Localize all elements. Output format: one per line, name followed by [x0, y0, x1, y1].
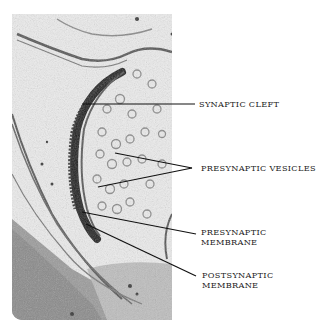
label-presynaptic-vesicles: PRESYNAPTIC VESICLES [201, 163, 316, 173]
label-line-1: PRESYNAPTIC [201, 227, 267, 237]
synapse-figure: SYNAPTIC CLEFT PRESYNAPTIC VESICLES PRES… [0, 0, 320, 335]
label-line-2: MEMBRANE [201, 237, 267, 247]
label-postsynaptic-membrane: POSTSYNAPTIC MEMBRANE [202, 270, 273, 290]
label-presynaptic-membrane: PRESYNAPTIC MEMBRANE [201, 227, 267, 247]
label-text: SYNAPTIC CLEFT [199, 99, 279, 109]
leader-vesicles-lower [98, 168, 192, 187]
leader-vesicles-upper [115, 153, 192, 168]
label-synaptic-cleft: SYNAPTIC CLEFT [199, 99, 279, 109]
label-text: PRESYNAPTIC VESICLES [201, 163, 316, 173]
leader-postsynaptic-membrane [86, 224, 196, 276]
label-line-1: POSTSYNAPTIC [202, 270, 273, 280]
label-line-2: MEMBRANE [202, 280, 273, 290]
